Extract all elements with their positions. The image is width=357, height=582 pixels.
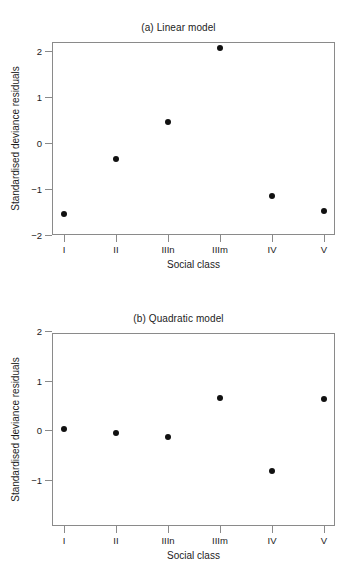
x-tick-label-b-5: V: [299, 536, 349, 546]
x-tick-label-b-4: IV: [247, 536, 297, 546]
y-tick-a-1: [45, 97, 52, 98]
data-point: [217, 45, 223, 51]
y-tick-a-3: [45, 189, 52, 190]
data-point: [321, 396, 327, 402]
x-tick-label-b-3: IIIm: [195, 536, 245, 546]
y-tick-b-0: [45, 331, 52, 332]
y-tick-label-a-0: 2: [2, 47, 42, 57]
x-axis-title-b: Social class: [52, 550, 335, 561]
chart-panel-linear-model: (a) Linear model Standardised deviance r…: [0, 0, 357, 291]
x-tick-label-b-1: II: [91, 536, 141, 546]
y-tick-a-0: [45, 51, 52, 52]
x-tick-label-a-3: IIIm: [195, 245, 245, 255]
x-tick-b-1: [116, 526, 117, 533]
x-tick-a-0: [64, 235, 65, 242]
x-tick-label-a-1: II: [91, 245, 141, 255]
x-tick-a-4: [272, 235, 273, 242]
x-tick-label-a-2: IIIn: [143, 245, 193, 255]
y-tick-a-4: [45, 235, 52, 236]
data-point: [61, 426, 67, 432]
x-tick-label-b-0: I: [39, 536, 89, 546]
x-axis-title-a: Social class: [52, 259, 335, 270]
plot-area-b: [52, 333, 335, 526]
y-tick-label-b-1: 1: [2, 377, 42, 387]
x-tick-label-a-4: IV: [247, 245, 297, 255]
x-tick-a-3: [220, 235, 221, 242]
y-tick-label-b-0: 2: [2, 327, 42, 337]
x-tick-label-a-5: V: [299, 245, 349, 255]
x-tick-b-2: [168, 526, 169, 533]
y-tick-label-b-3: −1: [2, 476, 42, 486]
y-tick-label-a-3: −1: [2, 185, 42, 195]
chart-panel-quadratic-model: (b) Quadratic model Standardised devianc…: [0, 291, 357, 582]
chart-title-b: (b) Quadratic model: [0, 313, 357, 324]
plot-area-a: [52, 42, 335, 235]
y-tick-label-a-2: 0: [2, 139, 42, 149]
chart-title-a: (a) Linear model: [0, 22, 357, 33]
y-tick-label-a-1: 1: [2, 93, 42, 103]
x-tick-b-4: [272, 526, 273, 533]
data-point: [217, 395, 223, 401]
y-tick-label-a-4: −2: [2, 231, 42, 241]
x-tick-b-5: [324, 526, 325, 533]
y-tick-label-b-2: 0: [2, 426, 42, 436]
y-tick-b-1: [45, 381, 52, 382]
y-tick-a-2: [45, 143, 52, 144]
y-tick-b-3: [45, 480, 52, 481]
x-tick-a-1: [116, 235, 117, 242]
x-tick-b-0: [64, 526, 65, 533]
x-tick-label-a-0: I: [39, 245, 89, 255]
y-tick-b-2: [45, 430, 52, 431]
x-tick-label-b-2: IIIn: [143, 536, 193, 546]
x-tick-a-2: [168, 235, 169, 242]
data-point: [269, 193, 275, 199]
figure-root: { "figure": { "xlabel": "Social class", …: [0, 0, 357, 582]
x-tick-a-5: [324, 235, 325, 242]
x-tick-b-3: [220, 526, 221, 533]
